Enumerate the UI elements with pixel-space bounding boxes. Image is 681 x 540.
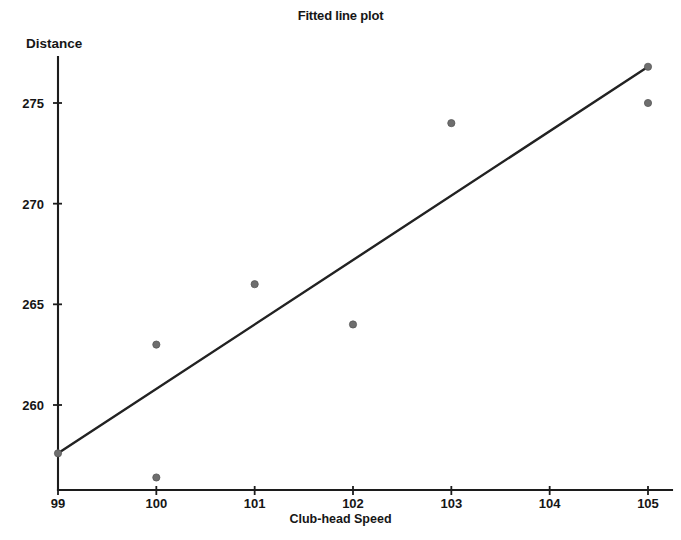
x-tick-label: 104: [539, 496, 561, 511]
scatter-point: [644, 63, 651, 70]
x-tick-label: 101: [244, 496, 266, 511]
y-tick-label: 275: [22, 96, 44, 111]
y-tick-label: 270: [22, 197, 44, 212]
scatter-point: [153, 474, 160, 481]
scatter-point: [448, 120, 455, 127]
x-tick-label: 105: [637, 496, 659, 511]
fitted-line-plot-chart: Fitted line plot Distance Club-head Spee…: [0, 0, 681, 540]
scatter-point: [153, 341, 160, 348]
x-tick-label: 103: [440, 496, 462, 511]
fitted-line: [58, 67, 648, 454]
y-tick-label-group: 260265270275: [22, 96, 44, 413]
x-tick-label: 102: [342, 496, 364, 511]
scatter-point: [349, 321, 356, 328]
y-tick-label: 265: [22, 297, 44, 312]
y-tick-label: 260: [22, 398, 44, 413]
fitted-regression-line: [58, 67, 648, 454]
plot-area: 260265270275 99100101102103104105: [0, 0, 681, 540]
scatter-point: [54, 450, 61, 457]
scatter-point-group: [54, 63, 651, 481]
scatter-point: [644, 99, 651, 106]
x-tick-label: 100: [145, 496, 167, 511]
scatter-point: [251, 281, 258, 288]
x-tick-label-group: 99100101102103104105: [51, 496, 659, 511]
x-tick-label: 99: [51, 496, 65, 511]
